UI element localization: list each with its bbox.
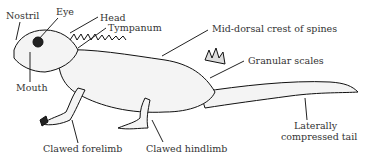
label-clawed-hindlimb: Clawed hindlimb (146, 143, 227, 154)
tail-leader (305, 98, 307, 120)
dorsal-crest (70, 34, 126, 40)
granular-scales-patch (205, 48, 225, 64)
lizard-forelimb (42, 88, 85, 125)
label-eye: Eye (56, 6, 74, 17)
label-nostril: Nostril (6, 10, 39, 21)
crest-leader (162, 30, 208, 56)
label-tympanum: Tympanum (108, 22, 162, 33)
eye-drawing (33, 37, 43, 47)
label-tail-line2: compressed tail (281, 131, 357, 142)
hindlimb-leader (152, 120, 163, 142)
label-granular-scales: Granular scales (248, 55, 324, 66)
lizard-tail (200, 82, 358, 108)
label-mid-dorsal-crest: Mid-dorsal crest of spines (212, 23, 337, 34)
forelimb-leader (72, 120, 78, 143)
lizard-body (59, 50, 215, 113)
tympanum-leader (78, 28, 106, 48)
head-leader (70, 17, 98, 33)
lizard-anatomy-diagram: Nostril Eye Head Tympanum Mid-dorsal cre… (0, 0, 369, 158)
nostril-leader (16, 22, 20, 40)
label-mouth: Mouth (16, 82, 48, 93)
label-clawed-forelimb: Clawed forelimb (43, 143, 122, 154)
lizard-illustration: Nostril Eye Head Tympanum Mid-dorsal cre… (0, 0, 369, 158)
granular-scales-leader (210, 61, 244, 78)
label-tail-line1: Laterally (294, 120, 338, 131)
